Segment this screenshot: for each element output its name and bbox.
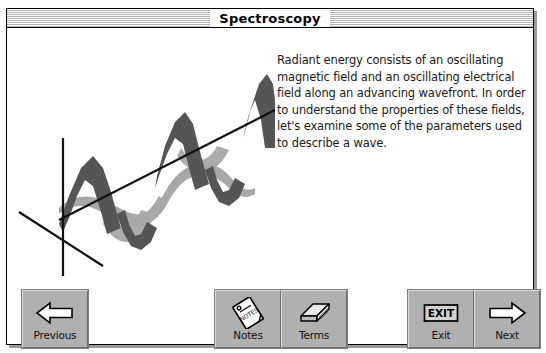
next-button[interactable]: Next <box>474 290 540 348</box>
button-group-exit-and-forward: EXIT Exit Next <box>407 289 541 349</box>
exit-button-label: Exit <box>409 329 473 341</box>
terms-button[interactable]: Terms <box>281 290 347 348</box>
left-arrow-icon <box>34 298 76 328</box>
notepad-icon: NOTES <box>231 298 265 328</box>
button-group-tools: NOTES Notes <box>214 289 348 349</box>
previous-button-label: Previous <box>23 329 87 341</box>
electromagnetic-wave-diagram <box>7 28 275 276</box>
next-button-label: Next <box>475 329 539 341</box>
window-title: Spectroscopy <box>210 10 329 27</box>
terms-button-label: Terms <box>282 329 346 341</box>
previous-button[interactable]: Previous <box>22 290 88 348</box>
button-bar: Previous <box>7 278 533 344</box>
exit-sign-icon: EXIT <box>422 298 460 328</box>
exit-sign-text: EXIT <box>428 307 455 319</box>
right-arrow-icon <box>486 298 528 328</box>
body-text: Radiant energy consists of an oscillatin… <box>277 52 527 152</box>
content-pane: Radiant energy consists of an oscillatin… <box>7 28 533 276</box>
notes-button[interactable]: NOTES Notes <box>215 290 281 348</box>
book-icon <box>295 298 333 328</box>
magnetic-field-wave <box>59 74 275 250</box>
screen: Spectroscopy <box>0 0 546 353</box>
exit-button[interactable]: EXIT Exit <box>408 290 474 348</box>
notes-button-label: Notes <box>216 329 280 341</box>
button-group-navigation-back: Previous <box>21 289 89 349</box>
application-window: Spectroscopy <box>6 8 534 345</box>
window-titlebar[interactable]: Spectroscopy <box>7 9 533 28</box>
